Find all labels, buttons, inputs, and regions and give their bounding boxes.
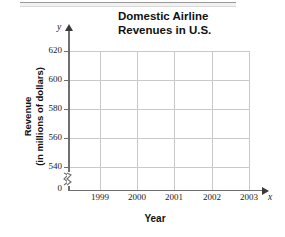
y-tick-mark-620 — [64, 51, 69, 52]
chart-title: Domestic Airline Revenues in U.S. — [118, 10, 278, 37]
x-tick-label-2001: 2001 — [154, 192, 194, 202]
y-tick-label-560: 560 — [36, 132, 62, 142]
chart-figure: Domestic Airline Revenues in U.S. Revenu… — [0, 0, 285, 237]
gridline-y-600 — [68, 80, 250, 81]
gridline-x-2001 — [174, 51, 175, 190]
y-tick-label-0: 0 — [36, 183, 62, 193]
x-axis-title: Year — [110, 213, 200, 224]
y-tick-mark-540 — [64, 167, 69, 168]
y-axis-variable-label: y — [57, 22, 61, 32]
x-tick-label-2003: 2003 — [229, 192, 269, 202]
gridline-x-2002 — [212, 51, 213, 190]
gridline-y-540 — [68, 167, 250, 168]
gridline-y-580 — [68, 109, 250, 110]
top-divider-rule — [20, 2, 236, 7]
y-axis-arrowhead-icon — [65, 24, 73, 31]
plot-area — [68, 51, 250, 190]
gridline-x-2003 — [249, 51, 250, 190]
gridline-y-620 — [68, 51, 250, 52]
x-tick-label-2002: 2002 — [192, 192, 232, 202]
y-tick-mark-600 — [64, 80, 69, 81]
gridline-y-560 — [68, 138, 250, 139]
y-tick-label-580: 580 — [36, 103, 62, 113]
chart-title-line-2: Revenues in U.S. — [118, 24, 278, 38]
y-tick-label-540: 540 — [36, 161, 62, 171]
y-tick-label-620: 620 — [36, 45, 62, 55]
y-tick-mark-560 — [64, 138, 69, 139]
y-axis-line — [68, 30, 70, 190]
y-tick-label-600: 600 — [36, 74, 62, 84]
y-tick-mark-580 — [64, 109, 69, 110]
x-tick-label-1999: 1999 — [80, 192, 120, 202]
x-tick-label-2000: 2000 — [117, 192, 157, 202]
x-axis-line — [68, 190, 264, 192]
y-axis-title-line-1: Revenue — [22, 37, 34, 197]
y-axis-title-line-2: (in millions of dollars) — [33, 37, 45, 197]
y-axis-title: Revenue (in millions of dollars) — [22, 37, 45, 197]
chart-title-line-1: Domestic Airline — [118, 10, 278, 24]
y-axis-break-icon — [63, 172, 75, 186]
gridline-x-2000 — [137, 51, 138, 190]
gridline-x-1999 — [100, 51, 101, 190]
